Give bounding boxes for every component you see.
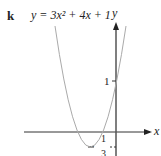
graph-canvas bbox=[0, 0, 161, 156]
x-axis-arrow-icon bbox=[144, 129, 152, 135]
y-axis-arrow-icon bbox=[113, 22, 119, 30]
